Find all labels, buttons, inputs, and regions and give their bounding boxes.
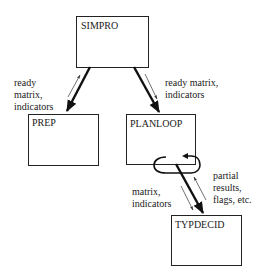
node-prep: PREP xyxy=(29,115,99,166)
edge-simpro-planloop: ready matrix, indicators xyxy=(134,67,221,112)
edge-planloop-typdecid-label: matrix, indicators xyxy=(132,186,172,209)
node-simpro: SIMPRO xyxy=(77,17,149,68)
call-arrow xyxy=(67,67,90,111)
node-prep-label: PREP xyxy=(32,117,56,128)
node-simpro-label: SIMPRO xyxy=(81,20,118,31)
node-planloop-label: PLANLOOP xyxy=(130,118,183,129)
edge-simpro-prep-label: ready matrix, indicators xyxy=(14,77,54,112)
edge-simpro-planloop-label: ready matrix, indicators xyxy=(165,77,221,100)
edge-planloop-loop xyxy=(154,153,200,173)
return-arrow-icon xyxy=(194,177,206,200)
hierarchy-diagram: SIMPRO PREP PLANLOOP TYPDECID ready matr… xyxy=(0,0,268,278)
node-typdecid: TYPDECID xyxy=(172,216,242,266)
return-arrow-icon xyxy=(68,75,80,97)
call-arrow xyxy=(134,67,159,112)
edge-simpro-prep: ready matrix, indicators xyxy=(14,67,90,112)
call-arrow xyxy=(176,164,203,213)
edge-planloop-typdecid: matrix, indicators partial results, flag… xyxy=(132,164,252,213)
edge-typdecid-planloop-label: partial results, flags, etc. xyxy=(213,170,252,205)
node-typdecid-label: TYPDECID xyxy=(175,219,224,230)
